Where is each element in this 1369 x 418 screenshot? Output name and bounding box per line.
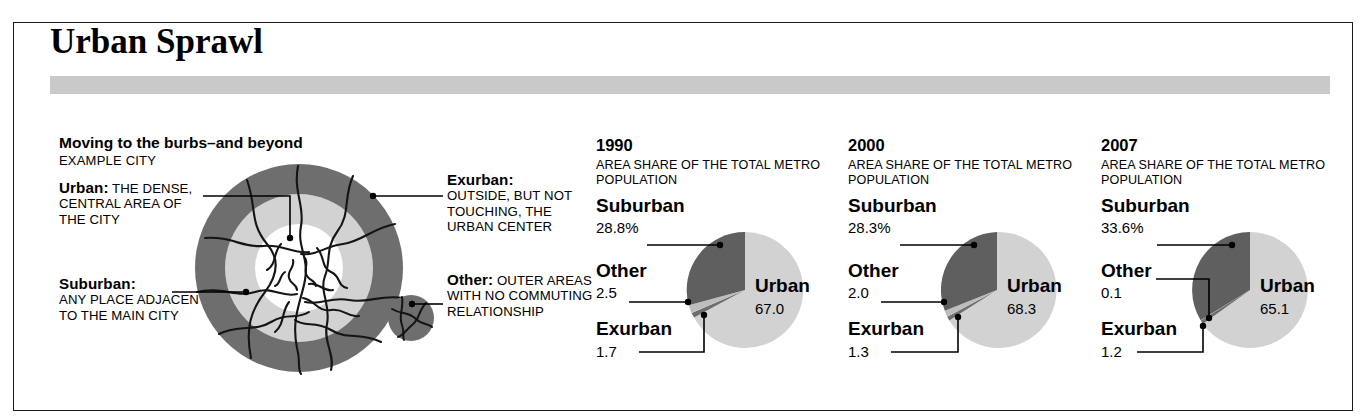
pie-2000-urban-value: 68.3 xyxy=(1007,300,1036,317)
pie-1990-suburban-value: 28.8% xyxy=(596,219,639,236)
leader-urban xyxy=(203,196,290,238)
pie-1990-exurban-label: Exurban xyxy=(596,318,672,339)
pie-2007-urban-value: 65.1 xyxy=(1260,300,1289,317)
pie-2007-suburban-value: 33.6% xyxy=(1101,219,1144,236)
pie-1990-other-label: Other xyxy=(596,260,647,281)
panel-1990-description: AREA SHARE OF THE TOTAL METRO POPULATION xyxy=(596,158,826,188)
pie-1990-urban-value: 67.0 xyxy=(755,300,784,317)
pie-2007-other-value: 0.1 xyxy=(1101,284,1122,301)
panel-1990: 1990 AREA SHARE OF THE TOTAL METRO POPUL… xyxy=(596,0,846,418)
pie-2000-other-label: Other xyxy=(848,260,899,281)
pie-chart-2007: Suburban 33.6% Other 0.1 Exurban 1.2 Urb… xyxy=(1097,190,1347,390)
pie-1990-exurban-value: 1.7 xyxy=(596,343,617,360)
panel-2007-description: AREA SHARE OF THE TOTAL METRO POPULATION xyxy=(1101,158,1331,188)
panel-2000-description: AREA SHARE OF THE TOTAL METRO POPULATION xyxy=(848,158,1078,188)
infographic-root: Urban Sprawl Moving to the burbs–and bey… xyxy=(0,0,1369,418)
pie-2007-suburban-label: Suburban xyxy=(1101,195,1190,216)
panel-2000-year: 2000 xyxy=(848,136,885,155)
panel-2007-year: 2007 xyxy=(1101,136,1138,155)
pie-1990-other-value: 2.5 xyxy=(596,284,617,301)
pie-2007-exurban-label: Exurban xyxy=(1101,318,1177,339)
pie-2000-suburban-label: Suburban xyxy=(848,195,937,216)
leader-dots xyxy=(243,193,415,307)
pie-1990-urban-label: Urban xyxy=(755,275,810,296)
pie-2007-urban-label: Urban xyxy=(1260,275,1315,296)
pie-2007-other-label: Other xyxy=(1101,260,1152,281)
pie-2000-exurban-label: Exurban xyxy=(848,318,924,339)
panel-1990-year: 1990 xyxy=(596,136,633,155)
panel-2007: 2007 AREA SHARE OF THE TOTAL METRO POPUL… xyxy=(1101,0,1351,418)
pie-chart-2000: Suburban 28.3% Other 2.0 Exurban 1.3 Urb… xyxy=(844,190,1094,390)
pie-2007-exurban-value: 1.2 xyxy=(1101,343,1122,360)
diagram-leader-lines xyxy=(0,0,600,418)
city-diagram-block: Moving to the burbs–and beyond EXAMPLE C… xyxy=(0,0,600,418)
pie-2000-exurban-value: 1.3 xyxy=(848,343,869,360)
pie-2000-other-value: 2.0 xyxy=(848,284,869,301)
pie-1990-suburban-label: Suburban xyxy=(596,195,685,216)
pie-chart-1990: Suburban 28.8% Other 2.5 Exurban 1.7 Urb… xyxy=(592,190,842,390)
pie-2000-urban-label: Urban xyxy=(1007,275,1062,296)
pie-2000-suburban-value: 28.3% xyxy=(848,219,891,236)
panel-2000: 2000 AREA SHARE OF THE TOTAL METRO POPUL… xyxy=(848,0,1098,418)
